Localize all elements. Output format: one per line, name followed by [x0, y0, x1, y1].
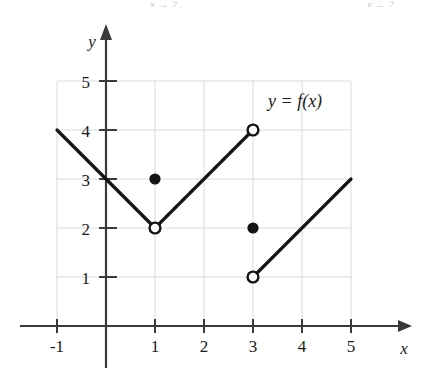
cropped-text-fragment-right: x → 2 — [367, 0, 422, 7]
x-tick-labels: -1 1 2 3 4 5 — [50, 337, 355, 356]
y-axis-arrowhead — [100, 24, 112, 40]
x-axis-label: x — [399, 339, 408, 358]
x-axis-arrowhead — [398, 320, 412, 332]
figure-container: x → 2 x → 2 — [0, 0, 427, 386]
cropped-text-fragment-left: x → 2 — [150, 0, 212, 7]
y-tick-label: 4 — [82, 122, 91, 141]
curve-label: y = f(x) — [266, 91, 322, 112]
y-tick-label: 5 — [82, 73, 91, 92]
filled-dot-point — [247, 222, 258, 233]
grid-lines — [57, 81, 351, 326]
x-tick-label: -1 — [50, 337, 64, 356]
filled-dot-point — [149, 173, 160, 184]
x-tick-label: 3 — [249, 337, 258, 356]
open-circle-point — [248, 125, 259, 136]
y-tick-label: 3 — [82, 171, 91, 190]
open-circle-point — [248, 272, 259, 283]
y-tick-labels: 1 2 3 4 5 — [82, 73, 91, 288]
graph-svg: -1 1 2 3 4 5 1 2 3 4 5 x y — [0, 0, 427, 386]
x-tick-label: 5 — [347, 337, 356, 356]
axes — [20, 24, 412, 368]
x-tick-label: 2 — [200, 337, 209, 356]
x-tick-label: 1 — [151, 337, 160, 356]
x-tick-label: 4 — [298, 337, 307, 356]
y-axis-label: y — [86, 32, 96, 51]
open-circle-point — [150, 223, 161, 234]
y-tick-label: 1 — [82, 269, 91, 288]
y-tick-label: 2 — [82, 220, 91, 239]
